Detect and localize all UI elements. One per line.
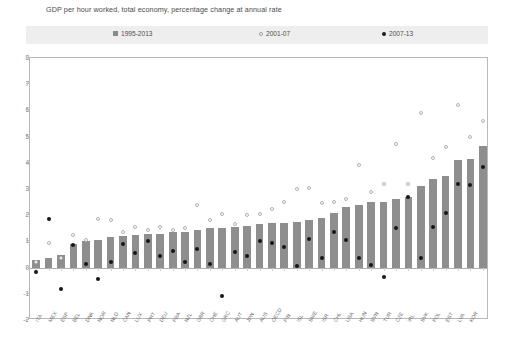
- x-axis-category-label: ITA: [34, 313, 43, 323]
- data-point-2007-13: [34, 270, 38, 274]
- x-axis-tick-mark: [197, 268, 198, 271]
- data-point-2007-13: [146, 239, 150, 243]
- data-point-2007-13: [258, 239, 262, 243]
- chart-bar: [231, 227, 239, 268]
- data-point-2001-07: [47, 241, 51, 245]
- chart-bar: [156, 234, 164, 268]
- x-axis-tick-mark: [408, 268, 409, 271]
- data-point-2007-13: [59, 287, 63, 291]
- x-axis-tick-mark: [470, 268, 471, 271]
- data-point-2001-07: [84, 238, 88, 242]
- x-axis-tick-mark: [148, 268, 149, 271]
- legend-item-1995-2013: 1995-2013: [113, 30, 153, 37]
- x-axis-tick-mark: [185, 268, 186, 271]
- chart-bar: [256, 224, 264, 267]
- chart-title: GDP per hour worked, total economy, perc…: [46, 5, 282, 14]
- data-point-2007-13: [382, 275, 386, 279]
- x-axis-tick-mark: [135, 268, 136, 271]
- data-point-2007-13: [282, 245, 286, 249]
- data-point-2001-07: [357, 163, 361, 167]
- data-point-2007-13: [295, 264, 299, 268]
- data-point-2007-13: [47, 217, 51, 221]
- x-axis-tick-mark: [123, 268, 124, 271]
- data-point-2001-07: [344, 197, 348, 201]
- data-point-2001-07: [233, 222, 237, 226]
- x-axis-tick-mark: [309, 268, 310, 271]
- data-point-2007-13: [431, 225, 435, 229]
- chart-bar: [243, 226, 251, 268]
- chart-bar: [218, 228, 226, 267]
- x-axis-tick-mark: [98, 268, 99, 271]
- data-point-2001-07: [468, 135, 472, 139]
- plot-inner: [30, 58, 487, 318]
- y-axis: -2-1012345678: [9, 57, 29, 319]
- legend-label: 2001-07: [266, 30, 290, 37]
- data-point-2007-13: [84, 262, 88, 266]
- data-point-2001-07: [208, 218, 212, 222]
- chart-bar: [405, 197, 413, 268]
- data-point-2001-07: [382, 182, 386, 186]
- x-axis-tick-mark: [210, 268, 211, 271]
- data-point-2007-13: [171, 249, 175, 253]
- chart-bar: [330, 213, 338, 268]
- data-point-2001-07: [282, 200, 286, 204]
- data-point-2001-07: [34, 260, 38, 264]
- chart-bar: [94, 240, 102, 268]
- data-point-2001-07: [332, 200, 336, 204]
- x-axis-tick-mark: [421, 268, 422, 271]
- data-point-2001-07: [220, 212, 224, 216]
- legend-item-2007-13: 2007-13: [382, 30, 413, 37]
- data-point-2001-07: [96, 217, 100, 221]
- chart-bar: [467, 159, 475, 268]
- x-axis-tick-mark: [235, 268, 236, 271]
- chart-figure: GDP per hour worked, total economy, perc…: [0, 0, 514, 353]
- x-axis-tick-mark: [483, 268, 484, 271]
- open-circle-marker-icon: [259, 32, 263, 36]
- data-point-2001-07: [369, 190, 373, 194]
- x-axis-tick-mark: [433, 268, 434, 271]
- chart-bar: [119, 236, 127, 267]
- data-point-2007-13: [406, 195, 410, 199]
- x-axis-tick-mark: [86, 268, 87, 271]
- data-point-2001-07: [456, 103, 460, 107]
- x-axis-tick-mark: [284, 268, 285, 271]
- data-point-2007-13: [419, 256, 423, 260]
- data-point-2001-07: [59, 256, 63, 260]
- x-axis-tick-mark: [160, 268, 161, 271]
- data-point-2001-07: [183, 226, 187, 230]
- data-point-2001-07: [419, 111, 423, 115]
- data-point-2001-07: [270, 207, 274, 211]
- data-point-2001-07: [195, 203, 199, 207]
- x-axis-tick-mark: [247, 268, 248, 271]
- chart-bar: [268, 223, 276, 268]
- data-point-2001-07: [71, 233, 75, 237]
- x-axis-tick-mark: [272, 268, 273, 271]
- data-point-2001-07: [307, 186, 311, 190]
- data-point-2007-13: [344, 238, 348, 242]
- chart-bar: [45, 258, 53, 267]
- data-point-2001-07: [481, 119, 485, 123]
- data-point-2007-13: [307, 237, 311, 241]
- filled-square-marker-icon: [113, 31, 118, 36]
- x-axis-tick-mark: [322, 268, 323, 271]
- data-point-2007-13: [468, 183, 472, 187]
- data-point-2007-13: [220, 294, 224, 298]
- x-axis-tick-mark: [61, 268, 62, 271]
- data-point-2001-07: [444, 145, 448, 149]
- x-axis-tick-mark: [396, 268, 397, 271]
- data-point-2007-13: [158, 254, 162, 258]
- legend-item-2001-07: 2001-07: [259, 30, 290, 37]
- data-point-2001-07: [121, 230, 125, 234]
- data-point-2007-13: [481, 165, 485, 169]
- data-point-2007-13: [121, 242, 125, 246]
- data-point-2001-07: [295, 187, 299, 191]
- data-point-2007-13: [233, 250, 237, 254]
- data-point-2007-13: [195, 247, 199, 251]
- data-point-2007-13: [208, 262, 212, 266]
- chart-legend: 1995-2013 2001-07 2007-13: [26, 26, 488, 44]
- x-axis-tick-mark: [359, 268, 360, 271]
- data-point-2007-13: [456, 182, 460, 186]
- x-axis-tick-mark: [49, 268, 50, 271]
- data-point-2007-13: [71, 243, 75, 247]
- data-point-2007-13: [245, 254, 249, 258]
